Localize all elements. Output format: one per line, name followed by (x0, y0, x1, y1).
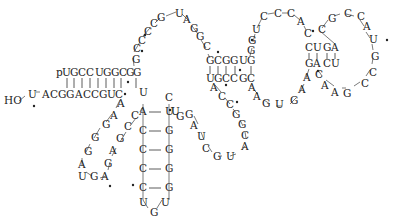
nt-G: G (343, 87, 351, 99)
d-loop: G C C C C G U A G G C (132, 7, 211, 66)
nt-G: G (328, 12, 336, 24)
nt-G: G (157, 11, 165, 23)
nt-C: C (139, 162, 147, 174)
nt-C: C (50, 88, 58, 100)
nt-C: C (287, 7, 295, 19)
nt-A: A (74, 88, 83, 100)
nt-G: G (165, 181, 173, 193)
nt-C: C (222, 72, 230, 84)
structure-canvas: p HO U G C C U G G C G G U A C G G A C C… (0, 0, 396, 223)
nt-G: G (213, 150, 221, 162)
nt-G: G (290, 94, 298, 106)
nt-G: G (91, 131, 99, 143)
nt-C: C (139, 143, 147, 155)
nt-A: A (320, 79, 329, 91)
nt-U: U (331, 57, 340, 69)
nt-U: U (313, 41, 322, 53)
nt-C: C (131, 109, 139, 121)
nt-U: U (139, 86, 148, 98)
nt-U: U (275, 98, 284, 110)
nt-C: C (305, 41, 313, 53)
nt-G: G (165, 143, 173, 155)
nt-U: U (369, 33, 378, 45)
nt-G: G (116, 132, 124, 144)
anticodon-stem: U A C C C C U G U G G G G U C U G (132, 86, 185, 218)
nt-C: C (91, 88, 99, 100)
nt-C: C (202, 142, 210, 154)
nt-A: A (189, 119, 198, 131)
nt-A: A (330, 41, 339, 53)
nt-G: G (371, 50, 379, 62)
nt-G: G (176, 110, 184, 122)
nt-A: A (138, 105, 147, 117)
nt-A: A (100, 170, 109, 182)
nt-C: C (214, 54, 222, 66)
nt-A: A (330, 86, 339, 98)
nt-G: G (132, 53, 140, 65)
nt-C: C (369, 66, 377, 78)
nt-A: A (116, 97, 125, 109)
nt-G: G (165, 124, 173, 136)
t-arm-loop: A C C G G C A U G C U A G (185, 81, 249, 162)
nt-A: A (108, 144, 117, 156)
nt-U: U (161, 196, 170, 208)
three-prime-label: HO (4, 94, 22, 106)
nt-G: G (262, 97, 270, 109)
nt-G: G (90, 170, 98, 182)
nt-A: A (240, 140, 249, 152)
nt-C: C (260, 10, 268, 22)
left-loop: A A G G G A U G A G A G C C (77, 97, 142, 187)
nt-A: A (296, 15, 305, 27)
nt-A: A (77, 158, 86, 170)
nt-A: A (247, 81, 256, 93)
nt-G: G (133, 66, 141, 78)
nt-C: C (361, 77, 369, 89)
nt-A: A (362, 20, 371, 32)
nt-A: A (41, 88, 50, 100)
nt-C: C (86, 66, 94, 78)
nt-G: G (185, 108, 193, 120)
nt-C: C (230, 72, 238, 84)
nt-C: C (274, 7, 282, 19)
nt-G: G (230, 54, 238, 66)
nt-U: U (252, 23, 261, 35)
nt-3p-U: U (28, 88, 37, 100)
nt-C: C (315, 68, 323, 80)
nt-C: C (203, 40, 211, 52)
nt-C: C (139, 181, 147, 193)
nt-G: G (165, 162, 173, 174)
nt-G: G (104, 157, 112, 169)
nt-C: C (304, 27, 312, 39)
nt-A: A (209, 81, 218, 93)
nt-C: C (78, 66, 86, 78)
nt-G: G (102, 118, 110, 130)
nt-U: U (197, 130, 206, 142)
nt-C: C (139, 124, 147, 136)
nt-C: C (318, 23, 326, 35)
nt-C: C (83, 88, 91, 100)
nt-C: C (218, 90, 226, 102)
nt-C: C (165, 91, 173, 103)
nt-U: U (78, 170, 87, 182)
right-loop: C G C C A U G C C G A A C (315, 7, 388, 99)
nt-A: A (302, 71, 311, 83)
nt-C: C (124, 120, 132, 132)
rna-secondary-structure-diagram: p HO U G C C U G G C G G U A C G G A C C… (0, 0, 396, 223)
nt-C: C (344, 7, 352, 19)
nt-U: U (226, 150, 235, 162)
nt-C: C (323, 57, 331, 69)
nt-G: G (84, 145, 92, 157)
nt-G: G (66, 88, 74, 100)
